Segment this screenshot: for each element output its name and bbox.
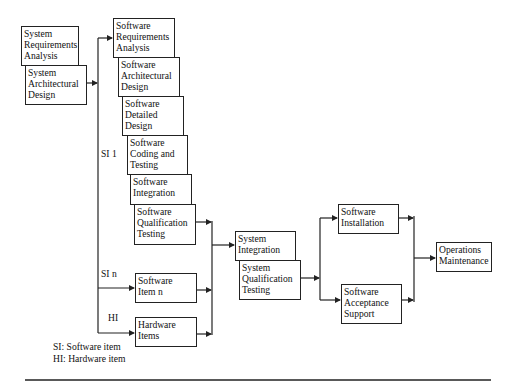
label-si-n: SI n xyxy=(101,268,117,279)
box-software-coding-testing: Software Coding and Testing xyxy=(127,135,188,175)
legend: SI: Software item HI: Hardware item xyxy=(53,341,125,364)
box-label: Software Integration xyxy=(133,176,175,198)
box-label: Software Coding and Testing xyxy=(130,137,175,170)
box-system-architectural-design: System Architectural Design xyxy=(25,65,87,105)
box-label: Software Detailed Design xyxy=(125,98,160,131)
box-software-detailed-design: Software Detailed Design xyxy=(122,96,184,136)
box-label: System Requirements Analysis xyxy=(24,28,77,61)
box-system-integration: System Integration xyxy=(235,231,296,261)
box-software-installation: Software Installation xyxy=(338,204,399,234)
box-label: Software Architectural Design xyxy=(121,59,172,92)
box-operations-maintenance: Operations Maintenance xyxy=(436,242,492,272)
box-label: Software Installation xyxy=(341,206,384,228)
box-system-requirements-analysis: System Requirements Analysis xyxy=(21,26,79,66)
box-label: Software Qualification Testing xyxy=(137,206,188,239)
box-software-item-n: Software Item n xyxy=(135,273,197,303)
box-label: Software Requirements Analysis xyxy=(116,20,169,53)
legend-hi: HI: Hardware item xyxy=(53,353,125,365)
box-label: Software Acceptance Support xyxy=(344,286,389,319)
box-label: System Integration xyxy=(238,233,280,255)
box-label: System Qualification Testing xyxy=(242,262,293,295)
box-label: System Architectural Design xyxy=(28,67,79,100)
box-software-requirements-analysis: Software Requirements Analysis xyxy=(113,18,175,58)
box-label: Hardware Items xyxy=(138,319,176,341)
label-hi: HI xyxy=(108,312,118,323)
box-label: Operations Maintenance xyxy=(439,244,489,266)
box-hardware-items: Hardware Items xyxy=(135,317,197,347)
box-software-acceptance-support: Software Acceptance Support xyxy=(341,284,402,324)
box-software-integration: Software Integration xyxy=(130,174,192,205)
box-software-qualification-testing: Software Qualification Testing xyxy=(134,204,196,245)
label-si-1: SI 1 xyxy=(101,148,117,159)
box-label: Software Item n xyxy=(138,275,173,297)
box-system-qualification-testing: System Qualification Testing xyxy=(239,260,301,300)
legend-si: SI: Software item xyxy=(53,341,125,353)
diagram-canvas: System Requirements Analysis System Arch… xyxy=(0,0,516,392)
box-software-architectural-design: Software Architectural Design xyxy=(118,57,180,97)
